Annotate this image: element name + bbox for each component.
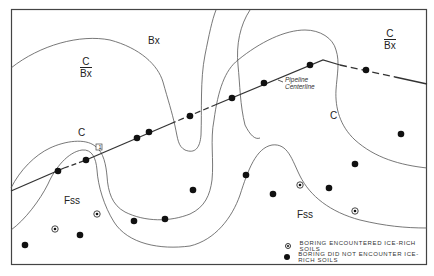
pipeline-label-leader [278,80,283,82]
boring-solid-dot-icon [55,168,62,175]
legend-item-no-ice: BORING DID NOT ENCOUNTER ICE-RICH SOILS [282,251,434,262]
boring-ringed-dot-icon [297,182,303,188]
boring-ringed-dot-icon [52,226,58,232]
boundary-c-bx-right [238,10,261,138]
boring-solid-dot-icon [146,129,153,136]
boring-solid-dot-icon [326,185,333,192]
site-plan-diagram [0,0,434,276]
ringed-dot-icon [282,243,294,249]
region-label-c-right: C [330,111,337,121]
borings-ice-rich [52,182,358,232]
fraction-denominator: Bx [384,40,396,51]
fraction-label-c-over-bx-right: CBx [384,28,396,51]
soil-boundaries [11,10,427,247]
pipeline-segment-solid-2 [86,124,170,160]
pipeline-segment-dashed-1 [64,160,86,168]
legend-label: BORING DID NOT ENCOUNTER ICE-RICH SOILS [298,251,434,263]
boring-solid-dot-icon [270,191,277,198]
station-marker-label: 1 [97,144,103,151]
region-label-fss-left: Fss [64,196,80,206]
boring-solid-dot-icon [229,95,236,102]
boundary-c-bx-left [11,10,216,151]
fraction-label-c-over-bx-left: CBx [80,56,92,79]
region-label-c-left: C [78,128,85,138]
fraction-numerator: C [384,28,396,40]
pipeline-label-line2: Centerline [285,83,315,90]
solid-dot-icon [282,254,292,260]
boring-solid-dot-icon [398,131,405,138]
borings-no-ice [22,62,405,249]
boring-solid-dot-icon [307,62,314,69]
boring-solid-dot-icon [187,113,194,120]
boring-solid-dot-icon [162,216,169,223]
region-label-fss-right: Fss [297,210,313,220]
boring-ringed-dot-icon [94,211,100,217]
pipeline-segment-solid-4 [395,77,427,84]
pipeline-label: Pipeline Centerline [285,76,315,90]
boring-solid-dot-icon [363,67,370,74]
boring-solid-dot-icon [190,187,197,194]
boring-solid-dot-icon [352,161,359,168]
boring-solid-dot-icon [77,232,84,239]
fraction-numerator: C [80,56,92,68]
map-frame [12,10,427,265]
pipeline-centerline [11,60,427,191]
fraction-denominator: Bx [80,68,92,79]
legend: BORING ENCOUNTERED ICE-RICH SOILS BORING… [282,240,434,262]
boring-ringed-dot-icon [352,208,358,214]
boring-solid-dot-icon [243,172,250,179]
region-label-bx-top: Bx [148,36,160,46]
boring-solid-dot-icon [134,135,141,142]
boring-solid-dot-icon [83,157,90,164]
pipeline-label-line1: Pipeline [285,76,315,83]
boring-solid-dot-icon [131,218,138,225]
boring-solid-dot-icon [22,242,29,249]
boring-solid-dot-icon [261,80,268,87]
boundary-c-left-lobe [11,30,427,220]
legend-item-ice-rich: BORING ENCOUNTERED ICE-RICH SOILS [282,240,434,251]
